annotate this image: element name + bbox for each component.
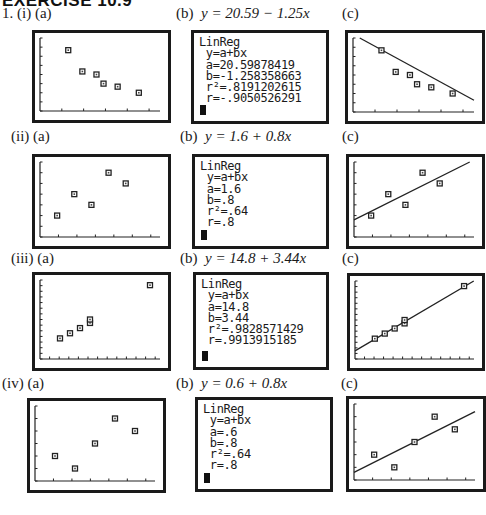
calculator-screen: LinReg y=a+bx a=14.8 b=3.44 r²=.98285714… [193, 272, 329, 370]
part-b-prefix: (b) [180, 128, 198, 144]
regression-equation: y = 0.6 + 0.8x [201, 375, 287, 391]
scatter-plot [35, 33, 168, 120]
cursor-block [204, 473, 210, 483]
regression-equation: y = 20.59 − 1.25x [201, 5, 310, 21]
part-c-label: (c) [342, 250, 359, 267]
part-a-label: (ii) (a) [11, 128, 50, 145]
part-a-label: 1. (i) (a) [2, 5, 52, 22]
scatter-plot-frame [32, 30, 171, 123]
cursor-block [201, 230, 207, 240]
regression-equation: y = 1.6 + 0.8x [205, 128, 291, 144]
screen-line: r=-.9050526291 [199, 93, 326, 104]
scatter-plot [35, 275, 168, 368]
regression-plot [349, 399, 483, 489]
part-b-label: (b) y = 14.8 + 3.44x [180, 250, 306, 267]
part-b-label: (b) y = 0.6 + 0.8x [176, 375, 287, 392]
cursor-block [202, 351, 208, 361]
scatter-plot [35, 157, 168, 246]
regression-plot-frame [346, 396, 486, 492]
regression-plot-frame [345, 30, 485, 124]
part-b-label: (b) y = 1.6 + 0.8x [180, 128, 291, 145]
regression-plot-frame [346, 154, 485, 249]
cursor-block [200, 105, 206, 115]
calculator-screen: LinReg y=a+bx a=.6 b=.8 r²=.64 r=.8 [195, 397, 333, 492]
part-b-label: (b) y = 20.59 − 1.25x [176, 5, 310, 22]
part-b-prefix: (b) [176, 375, 194, 391]
part-c-label: (c) [341, 375, 358, 392]
scatter-plot-frame [32, 154, 171, 249]
part-c-label: (c) [342, 5, 359, 22]
calculator-screen: LinReg y=a+bx a=1.6 b=.8 r²=.64 r=.8 [192, 154, 329, 249]
regression-plot [350, 276, 482, 368]
part-a-label: (iv) (a) [2, 375, 44, 392]
scatter-plot [30, 401, 163, 490]
regression-line [360, 38, 474, 100]
regression-plot [348, 33, 482, 121]
screen-line: r=.9913915185 [201, 335, 326, 346]
calculator-screen: LinReg y=a+bx a=20.59878419 b=-1.2583586… [191, 30, 329, 124]
regression-plot-frame [347, 273, 485, 371]
scatter-plot-frame [32, 272, 171, 371]
regression-line [354, 162, 470, 220]
screen-line: r=.8 [200, 217, 326, 228]
screen-line: r=.8 [203, 460, 330, 471]
part-b-prefix: (b) [180, 250, 198, 266]
scatter-plot-frame [27, 398, 166, 493]
regression-equation: y = 14.8 + 3.44x [205, 250, 306, 266]
part-a-label: (iii) (a) [11, 250, 54, 267]
regression-plot [349, 157, 482, 246]
part-c-label: (c) [342, 128, 359, 145]
part-b-prefix: (b) [176, 5, 194, 21]
